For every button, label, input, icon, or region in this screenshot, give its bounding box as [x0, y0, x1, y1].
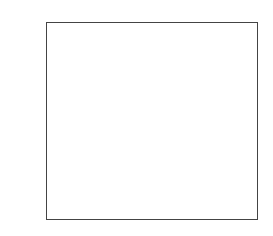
bar-chart — [0, 0, 273, 236]
plot-frame — [46, 22, 258, 220]
